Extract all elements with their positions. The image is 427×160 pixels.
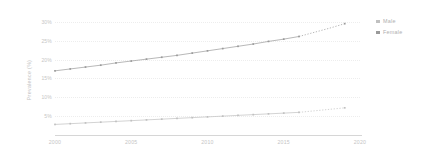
x-tick-label: 2015 <box>269 139 299 146</box>
data-point-marker <box>283 38 285 40</box>
data-point-marker <box>207 116 209 118</box>
data-point-marker <box>222 115 224 117</box>
data-point-marker <box>100 64 102 66</box>
data-point-marker <box>176 118 178 120</box>
legend-swatch-icon <box>376 31 380 35</box>
data-point-marker <box>115 62 117 64</box>
x-axis-tick-labels: 20002005201020152020 <box>55 139 360 149</box>
data-point-marker <box>161 118 163 120</box>
legend-item-female[interactable]: Female <box>376 28 426 37</box>
data-point-marker <box>268 113 270 115</box>
data-point-marker <box>69 123 71 125</box>
series-layer <box>55 18 360 135</box>
data-point-marker <box>146 119 148 121</box>
data-point-marker <box>54 70 56 72</box>
data-point-marker <box>100 121 102 123</box>
y-tick-label: 10% <box>28 94 52 100</box>
series-line-projected <box>299 108 345 113</box>
y-tick-label: 5% <box>28 113 52 119</box>
data-point-marker <box>268 41 270 43</box>
data-point-marker <box>237 45 239 47</box>
line-chart-figure: Prevalence (%) 5%10%15%20%25%30% 2000200… <box>0 0 427 160</box>
series-female <box>54 23 345 72</box>
data-point-marker <box>115 121 117 123</box>
data-point-marker <box>85 66 87 68</box>
y-tick-label: 15% <box>28 75 52 81</box>
legend-item-male[interactable]: Male <box>376 17 426 26</box>
data-point-marker <box>283 112 285 114</box>
x-tick-label: 2010 <box>193 139 223 146</box>
data-point-marker <box>237 115 239 117</box>
series-male <box>54 107 345 125</box>
data-point-marker <box>191 52 193 54</box>
data-point-marker <box>298 112 300 114</box>
data-point-marker <box>222 48 224 50</box>
data-point-marker <box>344 23 346 25</box>
y-tick-label: 20% <box>28 57 52 63</box>
chart-legend: MaleFemale <box>376 17 426 39</box>
y-tick-label: 25% <box>28 38 52 44</box>
legend-swatch-icon <box>376 20 380 24</box>
x-tick-label: 2000 <box>40 139 70 146</box>
series-line-projected <box>299 24 345 37</box>
legend-label: Male <box>383 17 396 26</box>
data-point-marker <box>298 36 300 38</box>
data-point-marker <box>252 43 254 45</box>
data-point-marker <box>344 107 346 109</box>
y-tick-label: 30% <box>28 19 52 25</box>
legend-label: Female <box>383 28 402 37</box>
data-point-marker <box>54 124 56 126</box>
plot-area <box>55 18 360 135</box>
data-point-marker <box>130 120 132 122</box>
data-point-marker <box>252 114 254 116</box>
data-point-marker <box>146 58 148 60</box>
data-point-marker <box>85 122 87 124</box>
data-point-marker <box>161 56 163 58</box>
y-axis-tick-labels: 5%10%15%20%25%30% <box>26 18 52 135</box>
data-point-marker <box>69 68 71 70</box>
data-point-marker <box>130 60 132 62</box>
x-axis-line <box>55 135 362 136</box>
data-point-marker <box>191 117 193 119</box>
series-line-solid <box>55 36 299 70</box>
x-tick-label: 2005 <box>116 139 146 146</box>
data-point-marker <box>207 50 209 52</box>
x-tick-label: 2020 <box>345 139 375 146</box>
data-point-marker <box>176 55 178 57</box>
